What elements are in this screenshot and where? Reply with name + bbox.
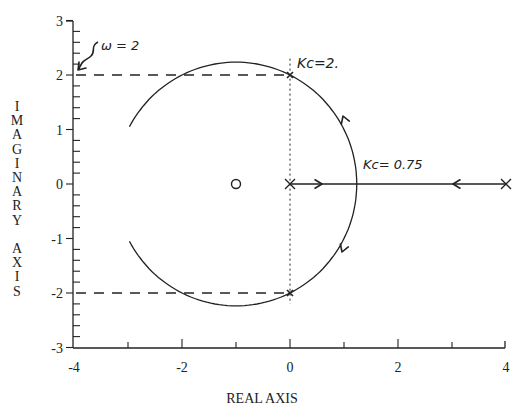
crossing-mark-icon bbox=[287, 72, 293, 78]
y-axis-label-char: R bbox=[8, 199, 26, 213]
x-tick-label: -4 bbox=[68, 360, 80, 375]
y-axis-label-char: I bbox=[8, 157, 26, 171]
y-axis-label-char: X bbox=[8, 256, 26, 270]
x-tick-label: 2 bbox=[395, 360, 402, 375]
arrow-down-icon bbox=[340, 244, 348, 252]
y-tick-label: -2 bbox=[51, 286, 63, 301]
y-axis-label-text: IMAGINARY AXIS bbox=[8, 100, 26, 299]
arrow-up-icon bbox=[341, 116, 349, 124]
y-axis-label-char: I bbox=[8, 270, 26, 284]
zero-o-icon bbox=[232, 180, 241, 189]
x-tick-label: 0 bbox=[287, 360, 294, 375]
guide-lines bbox=[76, 59, 290, 304]
y-axis-label-char: N bbox=[8, 171, 26, 185]
root-locus-plot: 3210-1-2-3 -4-2024 ω = 2 Kc=2. Kc= 0.75 bbox=[0, 0, 524, 415]
annotations: ω = 2 Kc=2. Kc= 0.75 bbox=[78, 38, 423, 172]
omega-annotation: ω = 2 bbox=[101, 38, 139, 53]
y-axis-label-char: S bbox=[8, 285, 26, 299]
omega-pointer-arrowhead-icon bbox=[78, 62, 86, 70]
x-tick-labels: -4-2024 bbox=[68, 360, 509, 375]
y-axis-label-char: A bbox=[8, 242, 26, 256]
y-axis-label-char: A bbox=[8, 128, 26, 142]
x-tick-label: -2 bbox=[176, 360, 188, 375]
y-axis-label-char: G bbox=[8, 143, 26, 157]
y-tick-label: -3 bbox=[51, 341, 63, 356]
omega-pointer-squiggle-icon bbox=[82, 42, 98, 63]
y-axis-label-char: M bbox=[8, 114, 26, 128]
y-axis-label-char: Y bbox=[8, 214, 26, 228]
locus-branches bbox=[129, 62, 506, 306]
y-axis-label-char: I bbox=[8, 100, 26, 114]
y-axis-label: IMAGINARY AXIS bbox=[8, 100, 26, 299]
kc-breakaway-annotation: Kc= 0.75 bbox=[363, 157, 423, 172]
x-axis-label: REAL AXIS bbox=[0, 391, 524, 407]
y-tick-label: -1 bbox=[51, 232, 63, 247]
y-tick-label: 3 bbox=[56, 14, 63, 29]
kc-upper-annotation: Kc=2. bbox=[297, 55, 339, 71]
y-tick-labels: 3210-1-2-3 bbox=[51, 14, 63, 356]
x-ticks bbox=[128, 339, 452, 348]
y-tick-label: 2 bbox=[56, 68, 63, 83]
y-tick-label: 0 bbox=[56, 177, 63, 192]
y-axis-label-char bbox=[8, 228, 26, 242]
x-tick-label: 4 bbox=[503, 360, 510, 375]
y-tick-label: 1 bbox=[56, 123, 63, 138]
y-axis-label-char: A bbox=[8, 185, 26, 199]
